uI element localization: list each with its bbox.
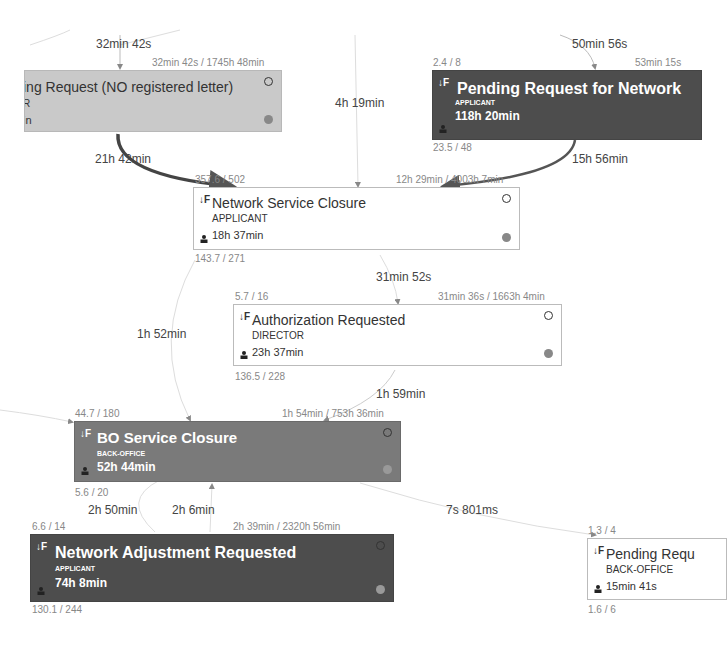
node-stat: 5.6 / 20	[75, 487, 108, 498]
node-stat: 32min 42s / 1745h 48min	[152, 57, 264, 68]
node-duration: 52h 44min	[97, 460, 156, 474]
sort-icon: ↓F	[36, 541, 47, 552]
status-dot-icon	[544, 349, 553, 358]
clock-icon	[502, 194, 511, 203]
node-duration: in	[24, 114, 32, 126]
person-icon	[200, 235, 208, 243]
node-title: Pending Request for Network	[457, 80, 681, 98]
node-stat: 31min 36s / 1663h 4min	[438, 291, 545, 302]
node-role: R	[24, 98, 30, 109]
node-stat: 44.7 / 180	[75, 408, 119, 419]
status-dot-icon	[376, 585, 385, 594]
edge-label: 21h 42min	[95, 152, 151, 166]
node-stat: 357.6 / 502	[195, 174, 245, 185]
node-duration: 18h 37min	[212, 229, 263, 241]
node-role: BACK-OFFICE	[606, 564, 673, 575]
sort-icon: ↓F	[80, 428, 91, 439]
edge-label: 1h 59min	[376, 387, 425, 401]
clock-icon	[264, 77, 273, 86]
node-title: Network Service Closure	[212, 195, 366, 211]
node-stat: 1h 54min / 753h 36min	[282, 408, 384, 419]
person-icon	[81, 467, 89, 475]
node-stat: 5.7 / 16	[235, 291, 268, 302]
node-stat: 23.5 / 48	[433, 142, 472, 153]
node-network-adjustment-requested[interactable]: ↓F Network Adjustment Requested APPLICAN…	[30, 534, 394, 602]
node-stat: 6.6 / 14	[32, 521, 65, 532]
edge-label: 1h 52min	[137, 327, 186, 341]
node-role: APPLICANT	[55, 565, 95, 572]
node-duration: 23h 37min	[252, 346, 303, 358]
person-icon	[240, 351, 248, 359]
person-icon	[37, 587, 45, 595]
node-stat: 2h 39min / 2320h 56min	[233, 521, 340, 532]
node-stat: 143.7 / 271	[195, 253, 245, 264]
edge-label: 4h 19min	[335, 96, 384, 110]
sort-icon: ↓F	[239, 311, 250, 322]
sort-icon: ↓F	[593, 545, 604, 556]
node-stat: 1.3 / 4	[588, 525, 616, 536]
status-dot-icon	[502, 233, 511, 242]
node-role: DIRECTOR	[252, 330, 304, 341]
edge-label: 2h 50min	[88, 503, 137, 517]
clock-icon	[376, 541, 385, 550]
edge-label: 32min 42s	[96, 37, 151, 51]
status-dot-icon	[383, 465, 392, 474]
node-role: BACK-OFFICE	[97, 450, 145, 457]
node-network-service-closure[interactable]: ↓F Network Service Closure APPLICANT 18h…	[193, 187, 520, 250]
node-stat: 130.1 / 244	[32, 604, 82, 615]
edge-label: 31min 52s	[376, 270, 431, 284]
sort-icon: ↓F	[199, 194, 210, 205]
node-bo-service-closure[interactable]: ↓F BO Service Closure BACK-OFFICE 52h 44…	[74, 421, 401, 482]
node-pending-request-bo[interactable]: ↓F Pending Requ BACK-OFFICE 15min 41s	[587, 538, 727, 600]
node-title: Authorization Requested	[252, 312, 405, 328]
edge-label: 2h 6min	[172, 503, 215, 517]
sort-icon: ↓F	[438, 77, 449, 88]
node-title: Pending Requ	[606, 546, 695, 562]
node-duration: 15min 41s	[606, 580, 657, 592]
node-title: ing Request (NO registered letter)	[24, 79, 233, 95]
node-stat: 2.4 / 8	[433, 57, 461, 68]
node-authorization-requested[interactable]: ↓F Authorization Requested DIRECTOR 23h …	[233, 304, 562, 366]
node-stat: 12h 29min / 4003h 7min	[396, 174, 503, 185]
person-icon	[594, 585, 602, 593]
node-pending-network[interactable]: ↓F Pending Request for Network APPLICANT…	[432, 70, 702, 140]
edge-label: 15h 56min	[572, 152, 628, 166]
node-title: Network Adjustment Requested	[55, 544, 296, 562]
node-title: BO Service Closure	[97, 429, 237, 446]
edge-label: 7s 801ms	[446, 503, 498, 517]
node-role: APPLICANT	[212, 213, 268, 224]
node-stat: 136.5 / 228	[235, 371, 285, 382]
clock-icon	[544, 311, 553, 320]
node-duration: 74h 8min	[55, 576, 107, 590]
node-stat: 53min 15s	[635, 57, 681, 68]
clock-icon	[383, 428, 392, 437]
edge-label: 50min 56s	[572, 37, 627, 51]
status-dot-icon	[264, 115, 273, 124]
person-icon	[439, 125, 447, 133]
node-pending-no-letter[interactable]: ing Request (NO registered letter) R in	[24, 70, 282, 132]
node-stat: 1.6 / 6	[588, 604, 616, 615]
node-role: APPLICANT	[455, 99, 495, 106]
node-duration: 118h 20min	[455, 109, 520, 123]
